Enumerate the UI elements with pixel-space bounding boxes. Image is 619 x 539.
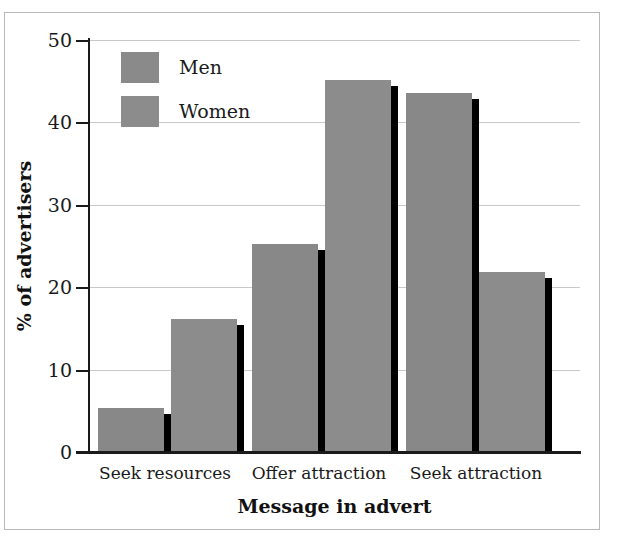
bar-shadow-men-offer-attraction xyxy=(318,250,325,452)
bar-chart-figure: Men Women 50 40 30 20 10 0 % of advertis… xyxy=(0,0,619,539)
x-axis-label: Message in advert xyxy=(89,495,580,517)
legend-swatch-men-icon xyxy=(121,52,159,83)
y-tick-label-50: 50 xyxy=(32,31,72,50)
bar-women-offer-attraction[interactable] xyxy=(325,80,391,452)
legend-label-men: Men xyxy=(179,56,222,78)
bar-men-seek-attraction[interactable] xyxy=(406,93,472,452)
bar-shadow-men-seek-attraction xyxy=(472,99,479,452)
chart-legend: Men Women xyxy=(121,47,321,135)
y-tick-label-40: 40 xyxy=(32,113,72,132)
y-tick-mark-0 xyxy=(76,451,90,453)
legend-label-women: Women xyxy=(179,100,250,122)
legend-entry-women: Women xyxy=(121,91,321,131)
y-axis-line xyxy=(88,38,90,454)
y-tick-mark-30 xyxy=(76,205,90,207)
bar-shadow-men-seek-resources xyxy=(164,414,171,452)
gridline-50 xyxy=(89,40,580,41)
x-tick-label-seek-attraction: Seek attraction xyxy=(400,463,552,483)
bar-shadow-women-seek-attraction xyxy=(545,278,552,452)
y-axis-label: % of advertisers xyxy=(13,136,35,356)
y-tick-label-30: 30 xyxy=(32,196,72,215)
y-tick-label-10: 10 xyxy=(32,361,72,380)
legend-swatch-women-icon xyxy=(121,96,159,127)
y-tick-mark-40 xyxy=(76,122,90,124)
bar-shadow-women-offer-attraction xyxy=(391,86,398,452)
bar-men-seek-resources[interactable] xyxy=(98,408,164,452)
y-tick-label-20: 20 xyxy=(32,278,72,297)
y-tick-mark-20 xyxy=(76,287,90,289)
legend-entry-men: Men xyxy=(121,47,321,87)
y-tick-label-0: 0 xyxy=(32,443,72,462)
bar-women-seek-resources[interactable] xyxy=(171,319,237,452)
bar-men-offer-attraction[interactable] xyxy=(252,244,318,452)
bar-shadow-women-seek-resources xyxy=(237,325,244,452)
bar-women-seek-attraction[interactable] xyxy=(479,272,545,452)
x-axis-line xyxy=(76,451,581,454)
y-tick-mark-10 xyxy=(76,370,90,372)
plot-area: Men Women xyxy=(89,40,580,452)
x-tick-label-offer-attraction: Offer attraction xyxy=(243,463,395,483)
x-tick-label-seek-resources: Seek resources xyxy=(89,463,241,483)
y-tick-mark-50 xyxy=(76,40,90,42)
